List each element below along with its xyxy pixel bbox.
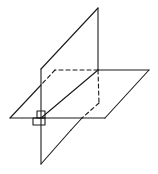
right-angle-marker — [33, 111, 45, 125]
intersection-line — [41, 70, 98, 118]
vertical-plane — [41, 8, 99, 164]
perpendicular-planes-diagram — [0, 0, 158, 174]
diagram-canvas — [0, 0, 158, 174]
horizontal-plane — [10, 70, 149, 118]
